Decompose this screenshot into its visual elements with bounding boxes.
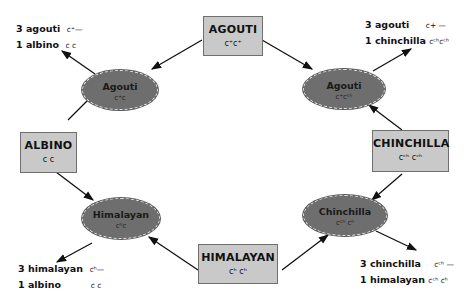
hybrid-himalayan-albino: Himalayan cʰc [82, 198, 160, 239]
result-top-right: 3 agouti c+ — 1 chinchilla cᶜʰcᶜʰ [365, 17, 449, 49]
result-line: 3 agouti c⁺— [16, 21, 82, 37]
parent-name: AGOUTI [204, 23, 262, 36]
result-line: 1 albino c c [16, 37, 82, 53]
parent-name: ALBINO [21, 139, 76, 152]
result-line: 1 himalayan cᶜʰ cʰ [360, 272, 454, 288]
hybrid-chinchilla-himalayan: Chinchilla cᶜʰ cʰ [303, 195, 387, 236]
hybrid-agouti-albino: Agouti c⁺c [82, 70, 158, 110]
result-line: 3 himalayan cʰ— [18, 261, 104, 277]
hybrid-genotype: c⁺c [83, 94, 157, 102]
result-line: 1 albino c c [18, 277, 104, 293]
result-line: 3 chinchilla cᶜʰ — [360, 256, 454, 272]
parent-genotype: cʰ cʰ [199, 267, 277, 276]
result-line: 3 agouti c+ — [365, 17, 449, 33]
parent-box-chinchilla: CHINCHILLA cᶜʰ cᶜʰ [372, 130, 449, 172]
parent-genotype: c⁺c⁺ [204, 39, 262, 48]
hybrid-genotype: c⁺cᶜʰ [304, 93, 384, 101]
hybrid-genotype: cʰc [83, 222, 159, 230]
hybrid-genotype: cᶜʰ cʰ [304, 219, 386, 227]
result-line: 1 chinchilla cᶜʰcᶜʰ [365, 33, 449, 49]
hybrid-name: Himalayan [83, 209, 159, 220]
result-bottom-left: 3 himalayan cʰ— 1 albino c c [18, 261, 104, 293]
result-top-left: 3 agouti c⁺— 1 albino c c [16, 21, 82, 53]
hybrid-name: Agouti [83, 81, 157, 92]
hybrid-agouti-chinchilla: Agouti c⁺cᶜʰ [303, 69, 385, 109]
parent-name: CHINCHILLA [373, 137, 448, 150]
hybrid-name: Chinchilla [304, 206, 386, 217]
result-bottom-right: 3 chinchilla cᶜʰ — 1 himalayan cᶜʰ cʰ [360, 256, 454, 288]
parent-name: HIMALAYAN [199, 251, 277, 264]
parent-box-agouti: AGOUTI c⁺c⁺ [203, 16, 263, 56]
parent-box-himalayan: HIMALAYAN cʰ cʰ [198, 244, 278, 284]
parent-genotype: cᶜʰ cᶜʰ [373, 153, 448, 162]
hybrid-name: Agouti [304, 80, 384, 91]
parent-box-albino: ALBINO c c [20, 132, 77, 173]
parent-genotype: c c [21, 155, 76, 164]
